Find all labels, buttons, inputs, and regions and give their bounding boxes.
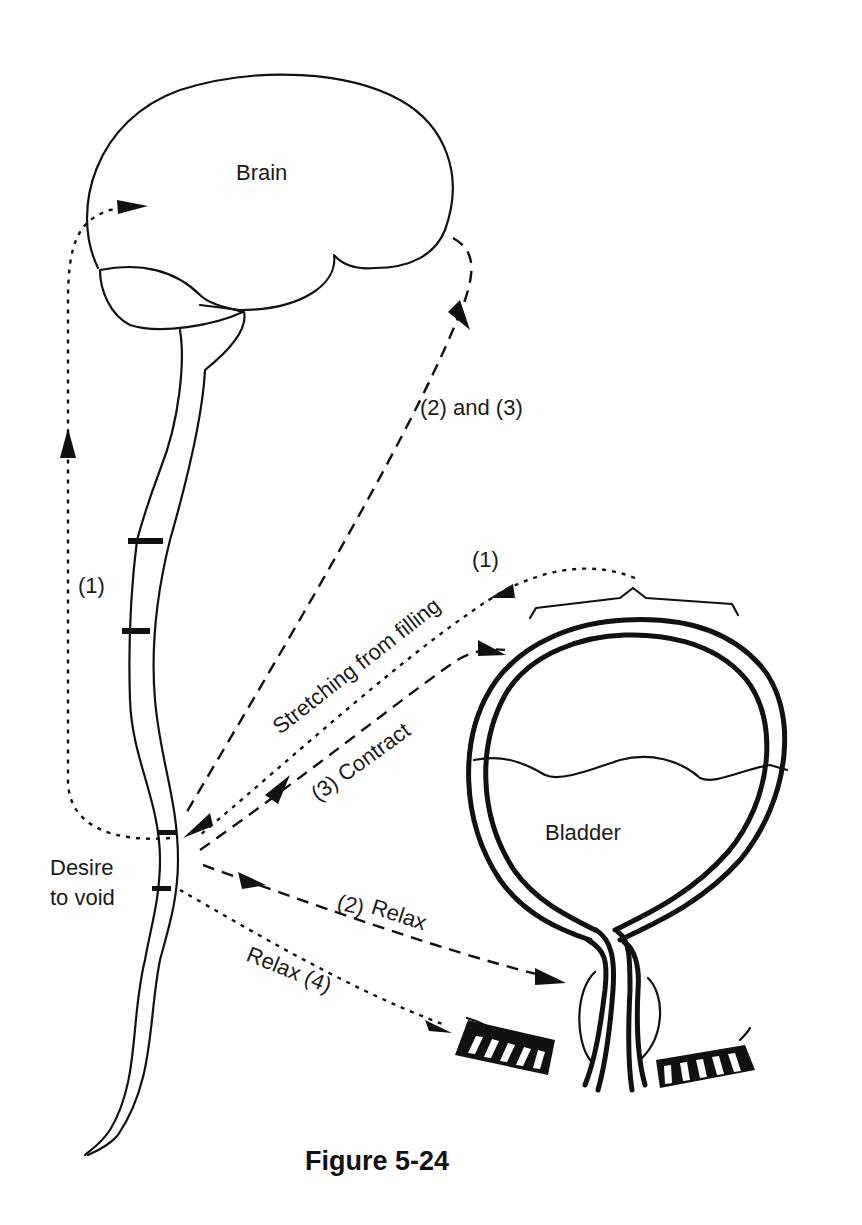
segment-marker-4 [152, 886, 171, 891]
arrow-internal-sphincter-icon [535, 968, 566, 985]
brain [87, 75, 453, 540]
relax-4-label: Relax (4) [243, 941, 335, 998]
arrow-contract-bladder-icon [478, 640, 506, 656]
urine-level [474, 757, 787, 780]
stretching-label: Stretching from filling [268, 593, 445, 739]
path-1-label: (1) [78, 573, 105, 598]
desire-label-line2: to void [50, 885, 115, 910]
relax-2-num-label: (2) [335, 890, 367, 920]
cerebrum-outline [87, 75, 453, 310]
bladder-bracket [530, 588, 738, 618]
segment-marker-2 [122, 628, 150, 634]
bladder [469, 620, 787, 1090]
arrow-into-cord-icon [183, 813, 213, 838]
spinal-cord [85, 538, 178, 1155]
descending-label: (2) and (3) [420, 395, 523, 420]
bladder-label: Bladder [545, 820, 621, 845]
internal-sphincter-right [642, 978, 660, 1058]
arrow-down-brain-icon [448, 300, 470, 330]
bladder-inner-wall [486, 635, 767, 930]
segment-marker-1 [128, 538, 163, 544]
path-1-bladder-label: (1) [472, 547, 499, 572]
urethra-right-inner [618, 932, 632, 1090]
path-2-3-descending [185, 238, 471, 815]
brainstem-left [137, 330, 182, 540]
micturition-reflex-diagram: Brain (1) (2) and (3) (1) Stretching fro… [0, 0, 862, 1225]
figure-caption: Figure 5-24 [305, 1146, 449, 1176]
cerebellum [100, 267, 243, 329]
brain-label: Brain [236, 160, 287, 185]
arrow-stretch-icon [490, 584, 515, 598]
path-1-ascending [68, 207, 170, 839]
external-sphincter-left [455, 1018, 555, 1075]
relax-2-word-label: Relax [368, 894, 429, 935]
segment-marker-3 [157, 830, 176, 835]
arrow-up-icon [60, 428, 76, 458]
desire-label-line1: Desire [50, 855, 114, 880]
external-sphincter-right [656, 1028, 755, 1088]
arrow-into-brain-icon [117, 200, 148, 214]
internal-sphincter-left [579, 972, 595, 1060]
